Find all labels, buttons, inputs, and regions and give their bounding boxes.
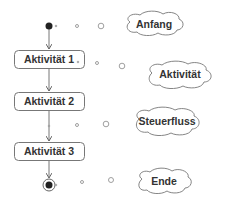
callout-steuerfluss: Steuerfluss xyxy=(136,107,199,135)
activity-1-label: Aktivität 1 xyxy=(24,53,74,65)
callout-aktivitaet: Aktivität xyxy=(149,61,211,88)
final-node-icon xyxy=(43,179,55,191)
callout-ende: Ende xyxy=(139,168,191,193)
callout-ende-label: Ende xyxy=(151,175,177,187)
activity-node-1: Aktivität 1 xyxy=(15,51,85,69)
activity-node-3: Aktivität 3 xyxy=(15,143,85,161)
callout-anfang: Anfang xyxy=(127,11,183,35)
activity-2-label: Aktivität 2 xyxy=(24,95,74,107)
callout-anfang-label: Anfang xyxy=(136,18,172,30)
callout-steuerfluss-label: Steuerfluss xyxy=(138,115,195,127)
initial-node-icon xyxy=(46,23,53,30)
activity-3-label: Aktivität 3 xyxy=(24,145,74,157)
activity-node-2: Aktivität 2 xyxy=(15,93,85,111)
activity-diagram: Aktivität 1 Aktivität 2 Aktivität 3 Anfa… xyxy=(0,0,229,201)
callout-aktivitaet-label: Aktivität xyxy=(159,68,201,80)
